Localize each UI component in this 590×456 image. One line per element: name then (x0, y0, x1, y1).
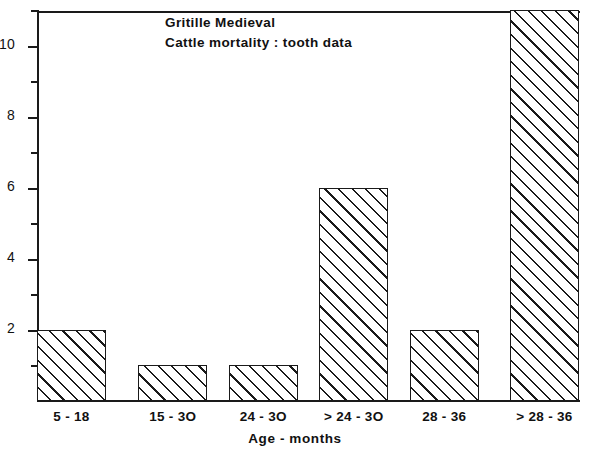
y-axis-minor-tick (31, 10, 39, 12)
plot-area: 246810 (37, 11, 580, 402)
bar (410, 330, 479, 401)
y-axis-minor-tick (31, 152, 39, 154)
y-axis-tick-label: 4 (7, 249, 15, 265)
bar (138, 365, 207, 401)
y-axis-minor-tick (31, 223, 39, 225)
y-axis-tick-label: 2 (7, 320, 15, 336)
x-axis-tick-label: 28 - 36 (422, 409, 466, 424)
y-axis-minor-tick (31, 294, 39, 296)
y-axis-major-tick: 8 (28, 117, 39, 119)
x-axis-tick-label: 15 - 3O (149, 409, 196, 424)
x-axis-tick-label: > 24 - 3O (324, 409, 383, 424)
bar (229, 365, 298, 401)
bar (37, 330, 106, 401)
y-axis-major-tick: 6 (28, 188, 39, 190)
bar (510, 10, 579, 401)
y-axis-tick-label: 10 (0, 36, 15, 52)
x-axis-title: Age - months (0, 431, 590, 446)
y-axis-tick-label: 6 (7, 178, 15, 194)
bar (319, 188, 388, 401)
y-axis-minor-tick (31, 81, 39, 83)
axis-frame-bottom (37, 400, 580, 402)
x-axis-tick-label: 5 - 18 (53, 409, 89, 424)
y-axis-tick-label: 8 (7, 107, 15, 123)
x-axis-tick-label: 24 - 3O (240, 409, 287, 424)
x-axis-tick-label: > 28 - 36 (516, 409, 572, 424)
chart-figure: Gritille Medieval Cattle mortality : too… (0, 0, 590, 456)
y-axis-major-tick: 4 (28, 259, 39, 261)
y-axis-major-tick: 10 (28, 46, 39, 48)
axis-frame-top (37, 11, 580, 13)
